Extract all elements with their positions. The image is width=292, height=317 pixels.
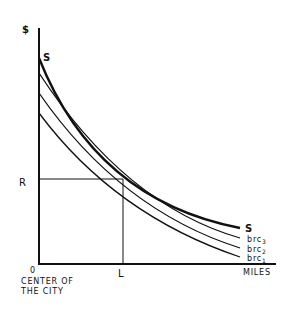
y-axis-label: $ <box>22 24 29 35</box>
brc1-label: brc1 <box>247 254 267 264</box>
origin-caption-line2: THE CITY <box>20 287 64 296</box>
curve-brc3 <box>39 73 240 238</box>
brc3-label: brc3 <box>247 235 267 245</box>
s-end-label: S <box>245 223 252 234</box>
curve-s <box>39 58 240 228</box>
origin-label: 0 <box>30 266 36 275</box>
x-axis-label: MILES <box>243 268 271 277</box>
s-start-label: S <box>43 52 50 63</box>
l-label: L <box>118 268 124 279</box>
bid-rent-diagram: $ R L S S brc3 brc2 brc1 MILES 0 CENTER … <box>0 0 292 317</box>
r-label: R <box>19 177 26 188</box>
curve-brc1 <box>39 113 240 257</box>
origin-caption-line1: CENTER OF <box>21 277 74 286</box>
